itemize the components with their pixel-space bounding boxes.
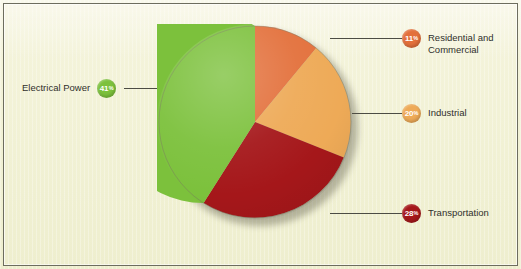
badge-percent-sign-industrial: % (414, 111, 419, 117)
badge-value-transportation: 28 (405, 210, 414, 218)
callout-electrical-power[interactable]: Electrical Power 41% (22, 79, 116, 98)
callout-transportation[interactable]: 28% Transportation (402, 204, 489, 223)
badge-percent-sign-electrical-power: % (109, 86, 114, 92)
badge-value-residential: 11 (405, 35, 413, 43)
callout-residential-and-commercial[interactable]: 11% Residential and Commercial (402, 29, 494, 56)
callout-label-transportation: Transportation (428, 204, 489, 219)
callout-label-electrical-power: Electrical Power (22, 79, 90, 94)
pie-graphic (157, 24, 357, 224)
badge-electrical-power: 41% (97, 79, 116, 98)
callout-industrial[interactable]: 20% Industrial (402, 104, 467, 123)
callout-label-industrial: Industrial (428, 104, 467, 119)
pie-slices (157, 24, 357, 224)
badge-percent-sign-transportation: % (414, 211, 419, 217)
badge-percent-sign-residential: % (413, 36, 418, 42)
badge-residential-and-commercial: 11% (402, 29, 421, 48)
pie-chart-figure: 11% Residential and Commercial 20% Indus… (0, 0, 521, 269)
badge-transportation: 28% (402, 204, 421, 223)
callout-label-residential-and-commercial: Residential and Commercial (428, 29, 494, 56)
badge-value-electrical-power: 41 (100, 85, 109, 93)
badge-value-industrial: 20 (405, 110, 414, 118)
leader-line-industrial (352, 113, 405, 114)
badge-industrial: 20% (402, 104, 421, 123)
